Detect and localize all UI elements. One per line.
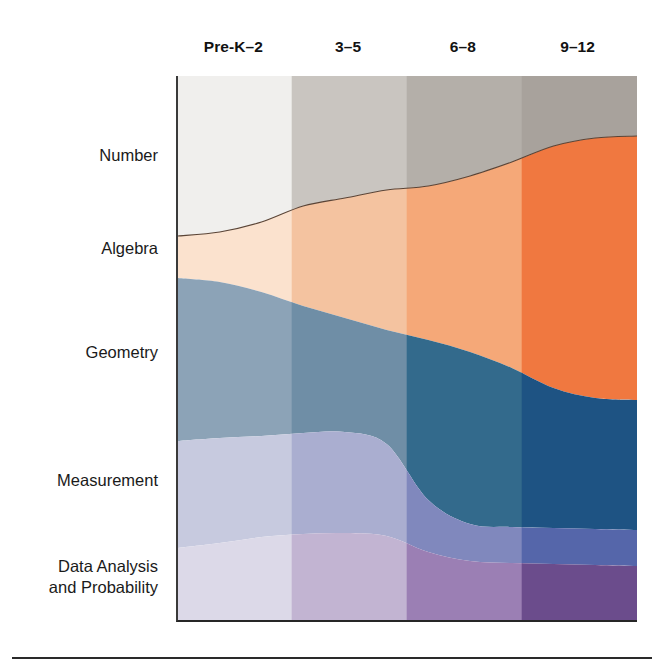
series-label-geometry: Geometry [86, 342, 158, 363]
column-header-6-8: 6–8 [406, 36, 521, 62]
column-header-pre-k-2: Pre-K–2 [176, 36, 291, 62]
series-label-algebra: Algebra [101, 238, 158, 259]
series-label-column: Number Algebra Geometry Measurement Data… [0, 70, 168, 622]
column-header-3-5: 3–5 [291, 36, 406, 62]
series-label-number: Number [99, 145, 158, 166]
plot-area [176, 76, 637, 622]
stacked-area-svg [178, 76, 637, 620]
column-header-row: Pre-K–2 3–5 6–8 9–12 [176, 36, 635, 62]
series-label-data-analysis: Data Analysis [58, 556, 158, 577]
column-header-9-12: 9–12 [520, 36, 635, 62]
series-label-and-probability: and Probability [49, 577, 158, 598]
figure-stacked-area-chart: Pre-K–2 3–5 6–8 9–12 Number Algebra Geom… [0, 0, 662, 665]
figure-bottom-rule [12, 657, 652, 659]
series-label-measurement: Measurement [57, 470, 158, 491]
